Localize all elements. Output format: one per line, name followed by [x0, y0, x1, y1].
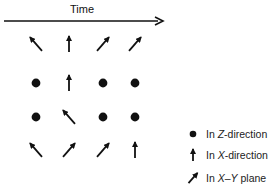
dot-icon	[32, 113, 41, 122]
dot-icon	[190, 131, 197, 138]
time-arrow-icon	[4, 17, 163, 25]
legend-item-xy-plane: In X–Y plane	[206, 172, 266, 184]
up-left-arrow-icon	[30, 37, 42, 51]
up-left-arrow-icon	[63, 110, 75, 124]
dot-icon	[99, 79, 108, 88]
up-right-arrow-icon	[189, 173, 198, 183]
legend-symbols	[189, 131, 198, 183]
legend-item-z-direction: In Z-direction	[206, 128, 267, 140]
dot-icon	[131, 113, 140, 122]
diagram-canvas	[0, 0, 273, 191]
up-right-arrow-icon	[97, 143, 109, 157]
time-label: Time	[70, 3, 94, 15]
dot-icon	[131, 79, 140, 88]
up-right-arrow-icon	[63, 143, 75, 157]
dot-icon	[32, 79, 41, 88]
spin-grid	[30, 36, 141, 158]
legend-item-x-direction: In X-direction	[206, 149, 268, 161]
up-left-arrow-icon	[30, 143, 42, 157]
dot-icon	[99, 113, 108, 122]
up-right-arrow-icon	[97, 37, 109, 51]
up-right-arrow-icon	[129, 37, 141, 51]
